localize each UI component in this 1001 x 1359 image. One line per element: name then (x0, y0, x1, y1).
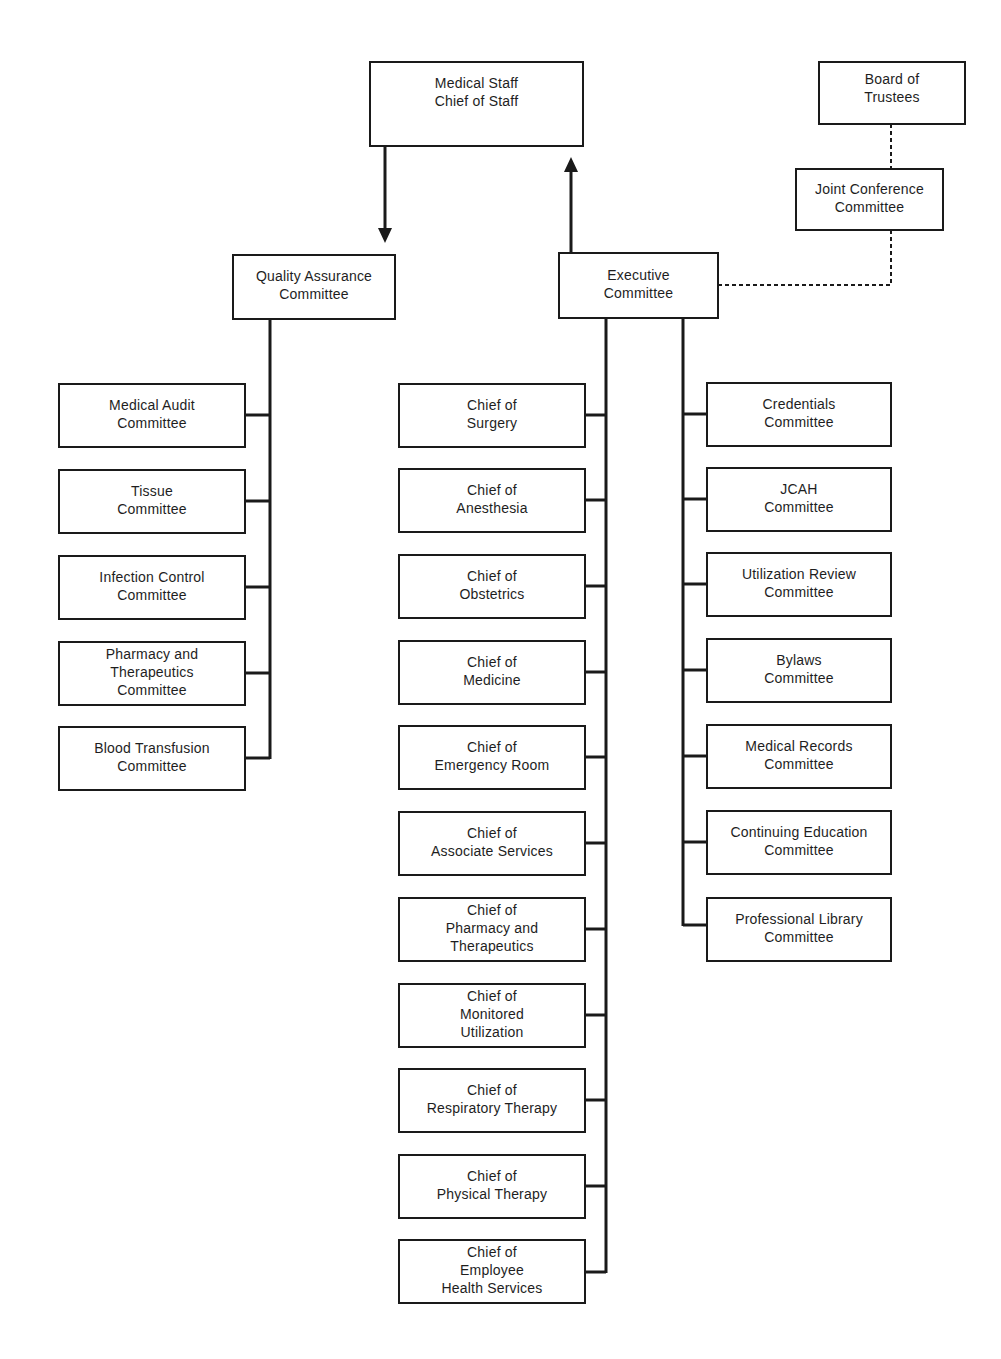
exec-committees-trunk (683, 318, 706, 926)
chief-label: Chief of Surgery (467, 396, 517, 432)
chief-label: Chief of Obstetrics (459, 567, 524, 603)
exec-committee-label: Bylaws Committee (764, 651, 833, 687)
qa-committee-box: Infection Control Committee (58, 555, 246, 620)
qa-committee-box: Blood Transfusion Committee (58, 726, 246, 791)
chief-label: Chief of Employee Health Services (441, 1243, 542, 1297)
executive-committee-label: Executive Committee (604, 266, 673, 302)
chief-box: Chief of Associate Services (398, 811, 586, 876)
joint-conference-label: Joint Conference Committee (815, 180, 924, 216)
chief-box: Chief of Emergency Room (398, 725, 586, 790)
board-of-trustees-label: Board of Trustees (864, 70, 920, 106)
chief-box: Chief of Monitored Utilization (398, 983, 586, 1048)
medical-staff-label: Medical Staff Chief of Staff (435, 74, 518, 110)
executive-committee-box: Executive Committee (558, 252, 719, 319)
qa-committee-label: Infection Control Committee (99, 568, 204, 604)
chief-label: Chief of Medicine (463, 653, 521, 689)
exec-committee-label: Professional Library Committee (735, 910, 863, 946)
exec-committee-box: Continuing Education Committee (706, 810, 892, 875)
exec-committee-box: Medical Records Committee (706, 724, 892, 789)
chief-label: Chief of Emergency Room (435, 738, 550, 774)
qa-committee-label: Pharmacy and Therapeutics Committee (106, 645, 199, 699)
exec-committee-label: Credentials Committee (762, 395, 835, 431)
qa-committee-label: Blood Transfusion Committee (94, 739, 209, 775)
chief-label: Chief of Anesthesia (456, 481, 527, 517)
qa-trunk (245, 319, 270, 759)
chief-box: Chief of Anesthesia (398, 468, 586, 533)
exec-committee-box: Professional Library Committee (706, 897, 892, 962)
exec-committee-box: Utilization Review Committee (706, 552, 892, 617)
qa-committee-label: Tissue Committee (117, 482, 186, 518)
chief-label: Chief of Physical Therapy (437, 1167, 547, 1203)
chief-box: Chief of Respiratory Therapy (398, 1068, 586, 1133)
medical-staff-box: Medical Staff Chief of Staff (369, 61, 584, 147)
exec-committee-box: Bylaws Committee (706, 638, 892, 703)
chief-label: Chief of Monitored Utilization (460, 987, 524, 1041)
org-chart: Medical Staff Chief of Staff Board of Tr… (0, 0, 1001, 1359)
exec-committee-box: JCAH Committee (706, 467, 892, 532)
qa-committee-box: Medical Audit Committee (58, 383, 246, 448)
chief-box: Chief of Obstetrics (398, 554, 586, 619)
chief-box: Chief of Pharmacy and Therapeutics (398, 897, 586, 962)
quality-assurance-box: Quality Assurance Committee (232, 254, 396, 320)
down-arrow-icon (378, 146, 392, 243)
chief-box: Chief of Physical Therapy (398, 1154, 586, 1219)
chief-box: Chief of Employee Health Services (398, 1239, 586, 1304)
joint-conference-box: Joint Conference Committee (795, 168, 944, 231)
qa-committee-box: Tissue Committee (58, 469, 246, 534)
chief-label: Chief of Pharmacy and Therapeutics (446, 901, 539, 955)
chief-label: Chief of Associate Services (431, 824, 553, 860)
exec-committee-box: Credentials Committee (706, 382, 892, 447)
qa-committee-box: Pharmacy and Therapeutics Committee (58, 641, 246, 706)
chief-box: Chief of Surgery (398, 383, 586, 448)
quality-assurance-label: Quality Assurance Committee (256, 267, 372, 303)
board-of-trustees-box: Board of Trustees (818, 61, 966, 125)
exec-committee-label: Utilization Review Committee (742, 565, 856, 601)
qa-committee-label: Medical Audit Committee (109, 396, 195, 432)
chiefs-trunk (585, 318, 606, 1273)
exec-committee-label: Medical Records Committee (745, 737, 852, 773)
exec-committee-label: JCAH Committee (764, 480, 833, 516)
chief-box: Chief of Medicine (398, 640, 586, 705)
up-arrow-icon (564, 157, 578, 252)
exec-committee-label: Continuing Education Committee (730, 823, 867, 859)
chief-label: Chief of Respiratory Therapy (427, 1081, 557, 1117)
